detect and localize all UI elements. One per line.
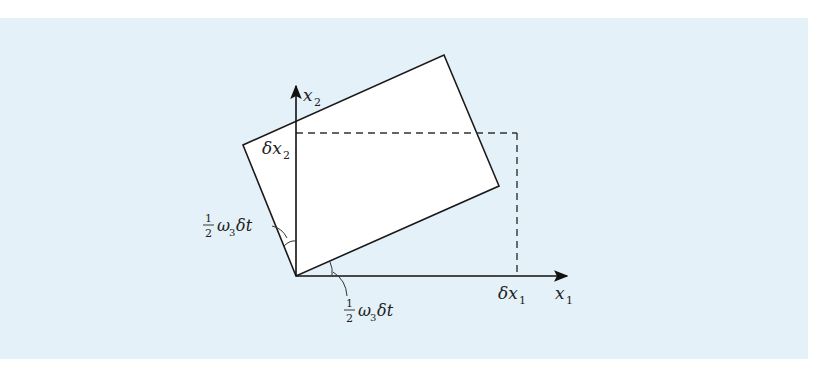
svg-text:2: 2 <box>283 149 290 162</box>
svg-text:2: 2 <box>314 96 321 109</box>
svg-text:3: 3 <box>229 227 235 238</box>
svg-text:1: 1 <box>519 294 526 307</box>
svg-text:δt: δt <box>236 216 253 235</box>
svg-text:2: 2 <box>346 312 353 325</box>
svg-text:x: x <box>303 85 313 105</box>
rotation-diagram: x 2 x 1 δx 2 δx 1 1 2 ω 3 δt 1 2 ω 3 δt <box>0 0 839 386</box>
angle-arc-lower <box>330 262 332 276</box>
x1-axis-label: x 1 <box>555 283 573 307</box>
angle-label-upper: 1 2 ω 3 δt <box>203 212 253 240</box>
angle-label-lower: 1 2 ω 3 δt <box>344 297 394 325</box>
svg-text:δx: δx <box>498 283 518 303</box>
rotated-rectangle <box>243 55 499 276</box>
svg-text:1: 1 <box>566 294 573 307</box>
svg-text:1: 1 <box>205 212 212 225</box>
svg-text:δt: δt <box>377 301 394 320</box>
x2-axis-label: x 2 <box>303 85 321 109</box>
delta-x1-label: δx 1 <box>498 283 526 307</box>
svg-text:x: x <box>555 283 565 303</box>
svg-text:2: 2 <box>205 227 212 240</box>
svg-text:δx: δx <box>262 138 282 158</box>
svg-text:1: 1 <box>346 297 353 310</box>
svg-text:3: 3 <box>370 312 376 323</box>
